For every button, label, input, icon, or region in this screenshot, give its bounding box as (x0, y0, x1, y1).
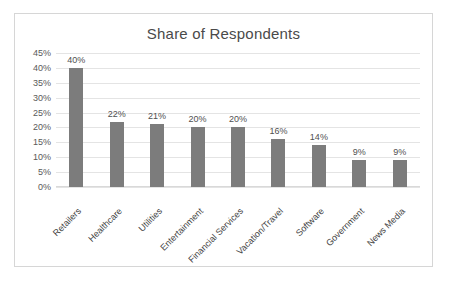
bar-value-label: 40% (67, 55, 85, 65)
bar[interactable] (150, 124, 164, 187)
y-axis-tick-label: 10% (33, 152, 51, 162)
y-axis-tick-label: 5% (38, 167, 51, 177)
y-axis-tick-label: 0% (38, 182, 51, 192)
bar-slot: 9% (380, 53, 420, 187)
y-axis-tick-label: 20% (33, 122, 51, 132)
bar-value-label: 20% (189, 114, 207, 124)
bar-slot: 22% (96, 53, 136, 187)
y-axis-tick-label: 45% (33, 48, 51, 58)
chart-title: Share of Respondents (15, 25, 432, 42)
gridline (56, 187, 420, 188)
bar[interactable] (271, 139, 285, 187)
y-axis-tick-label: 30% (33, 93, 51, 103)
bar-value-label: 9% (353, 147, 366, 157)
bar-slot: 20% (177, 53, 217, 187)
bar-series: 40%22%21%20%20%16%14%9%9% (56, 53, 420, 187)
y-axis-tick-label: 25% (33, 108, 51, 118)
bar-slot: 16% (258, 53, 298, 187)
bar-value-label: 20% (229, 114, 247, 124)
bar-slot: 20% (218, 53, 258, 187)
bar-slot: 14% (299, 53, 339, 187)
bar-value-label: 14% (310, 132, 328, 142)
bar-value-label: 22% (108, 109, 126, 119)
bar-slot: 21% (137, 53, 177, 187)
y-axis-tick-label: 40% (33, 63, 51, 73)
bar-slot: 40% (56, 53, 96, 187)
plot-area: 0%5%10%15%20%25%30%35%40%45% 40%22%21%20… (56, 53, 420, 187)
y-axis-tick-label: 15% (33, 137, 51, 147)
bar[interactable] (312, 145, 326, 187)
x-axis-category-label: Retailers (0, 206, 83, 286)
chart-frame: Share of Respondents 0%5%10%15%20%25%30%… (14, 13, 433, 267)
bar-slot: 9% (339, 53, 379, 187)
bar[interactable] (352, 160, 366, 187)
bar[interactable] (231, 127, 245, 187)
bar[interactable] (191, 127, 205, 187)
bar[interactable] (69, 68, 83, 187)
y-axis-tick-label: 35% (33, 78, 51, 88)
bar[interactable] (110, 122, 124, 188)
bar[interactable] (393, 160, 407, 187)
bar-value-label: 21% (148, 111, 166, 121)
bar-value-label: 16% (269, 126, 287, 136)
bar-value-label: 9% (393, 147, 406, 157)
